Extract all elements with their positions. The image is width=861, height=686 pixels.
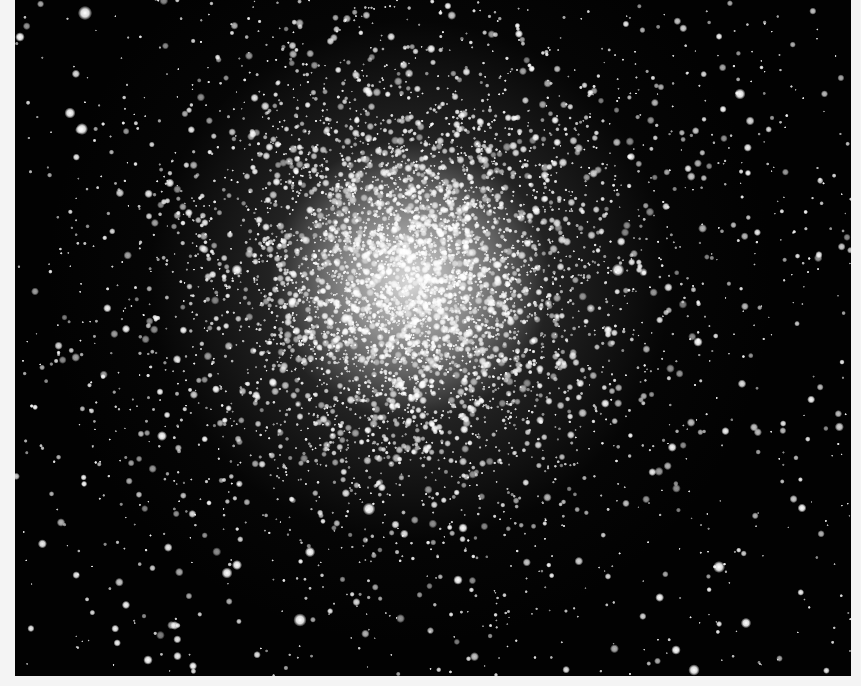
globular-cluster-photo: [15, 0, 851, 676]
page: [0, 0, 861, 686]
star-field: [15, 0, 851, 676]
